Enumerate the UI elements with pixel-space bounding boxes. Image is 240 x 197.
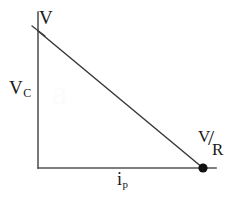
x-axis-label-base: i bbox=[117, 169, 122, 189]
x-intercept-label: V/R bbox=[198, 128, 228, 161]
y-intercept-label: V bbox=[39, 8, 53, 27]
fraction-group: V/R bbox=[198, 128, 228, 158]
fraction-denominator: R bbox=[212, 141, 223, 158]
load-line-figure: a V VC ip V/R bbox=[0, 0, 240, 197]
y-axis-label-base: V bbox=[9, 77, 23, 98]
figure-canvas bbox=[0, 0, 240, 197]
load-line bbox=[38, 31, 203, 168]
x-axis-label-subscript: p bbox=[123, 178, 129, 190]
x-axis-label: ip bbox=[117, 170, 128, 190]
y-axis-label-subscript: C bbox=[23, 86, 31, 100]
y-axis-label: VC bbox=[9, 78, 31, 99]
x-intercept-dot-icon bbox=[198, 163, 207, 172]
